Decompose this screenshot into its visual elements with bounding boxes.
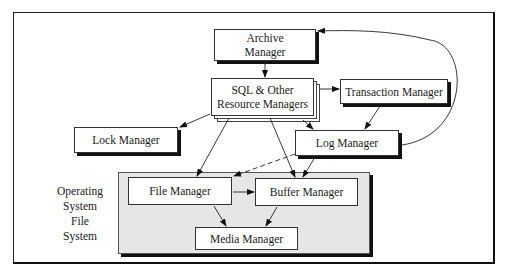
buffer-manager-node: Buffer Manager: [255, 178, 358, 206]
file-manager-node: File Manager: [128, 177, 232, 205]
os-label-line-2: System: [52, 199, 108, 214]
file-manager-label: File Manager: [149, 184, 211, 198]
media-manager-label: Media Manager: [210, 232, 283, 246]
archive-manager-node: Archive Manager: [214, 29, 316, 61]
log-manager-label: Log Manager: [316, 136, 378, 150]
transaction-manager-node: Transaction Manager: [340, 79, 448, 104]
resource-managers-label-2: Resource Managers: [217, 97, 308, 111]
log-manager-node: Log Manager: [295, 130, 399, 156]
os-label-line-1: Operating: [52, 184, 108, 199]
resource-managers-node: SQL & Other Resource Managers: [211, 78, 314, 116]
os-label-line-3: File: [52, 214, 108, 229]
lock-manager-label: Lock Manager: [92, 133, 159, 147]
transaction-manager-label: Transaction Manager: [345, 85, 443, 99]
archive-manager-label-1: Archive: [246, 31, 283, 45]
resource-managers-label-1: SQL & Other: [231, 83, 293, 97]
archive-manager-label-2: Manager: [245, 45, 286, 59]
lock-manager-node: Lock Manager: [74, 127, 178, 153]
os-label-line-4: System: [52, 229, 108, 244]
media-manager-node: Media Manager: [195, 227, 298, 250]
os-file-system-label: Operating System File System: [52, 184, 108, 244]
buffer-manager-label: Buffer Manager: [270, 185, 344, 199]
